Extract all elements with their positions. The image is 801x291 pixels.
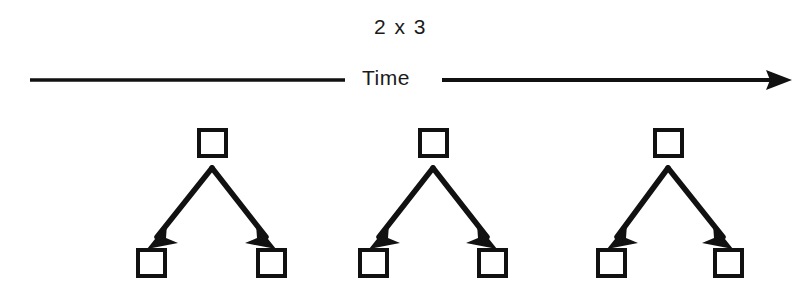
tree-2: [360, 130, 506, 276]
tree-1-leaf-right: [258, 250, 285, 276]
diagram-graphics: [0, 0, 801, 291]
time-axis: [30, 70, 792, 90]
tree-3-leaf-left: [598, 250, 625, 276]
tree-3-root-node: [655, 130, 682, 156]
tree-2-leaf-right: [479, 250, 506, 276]
tree-3-leaf-right: [715, 250, 742, 276]
tree-2-root-node: [420, 130, 447, 156]
tree-3-branch-left: [607, 168, 668, 249]
tree-2-branch-right: [433, 168, 497, 249]
tree-2-leaf-left: [360, 250, 387, 276]
tree-1-branch-right: [212, 168, 276, 249]
tree-1-branch-left: [147, 168, 212, 249]
tree-3: [598, 130, 742, 276]
tree-1: [138, 130, 285, 276]
tree-3-branch-right: [668, 168, 733, 249]
tree-2-branch-left: [369, 168, 433, 249]
tree-1-root-node: [199, 130, 226, 156]
tree-1-leaf-left: [138, 250, 165, 276]
figure-canvas: 2 x 3 Time: [0, 0, 801, 291]
